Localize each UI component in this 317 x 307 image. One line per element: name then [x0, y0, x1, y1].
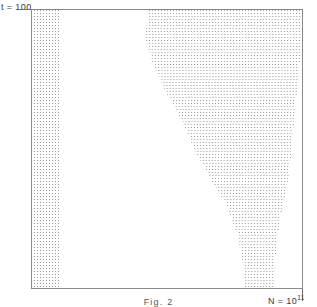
figure-caption: Fig. 2 — [0, 297, 317, 307]
stipple-region-left-band — [34, 10, 61, 289]
axis-label-time: t = 100 — [1, 2, 32, 12]
plot-frame — [31, 9, 303, 289]
stipple-slice — [245, 286, 275, 288]
